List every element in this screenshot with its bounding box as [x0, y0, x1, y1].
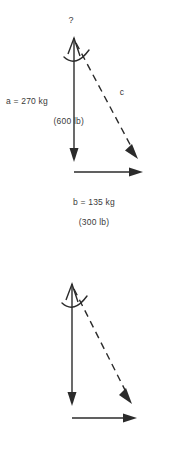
vector-diagram-solved-graphic [0, 238, 178, 476]
vector-b-arrowhead-icon [129, 168, 143, 177]
vector-c-arrowhead-icon [125, 144, 138, 159]
angle-arc-icon [62, 296, 87, 307]
vector-diagram-unsolved: ? c a = 270 kg (600 lb) b = 135 kg (300 … [0, 0, 178, 238]
vector-c-arrowhead-icon [119, 388, 132, 404]
vector-c-shaft [74, 289, 127, 394]
vector-b-arrowhead-icon [123, 414, 137, 423]
vector-a-kg-label: a = 270 kg [6, 95, 84, 108]
vector-c-label: c [112, 86, 132, 99]
vector-diagram-solved: 26.57° a = 270 kg (600 lb) c = 302 kg (6… [0, 238, 178, 476]
vector-a-lb-label: (600 lb) [6, 115, 84, 128]
vector-b-lb-label: (300 lb) [46, 216, 142, 229]
vector-b-kg-label: b = 135 kg [46, 196, 142, 209]
unknown-angle-label: ? [60, 14, 82, 27]
vector-a-arrowhead-icon [68, 392, 77, 406]
vector-a-arrowhead-icon [70, 148, 79, 162]
